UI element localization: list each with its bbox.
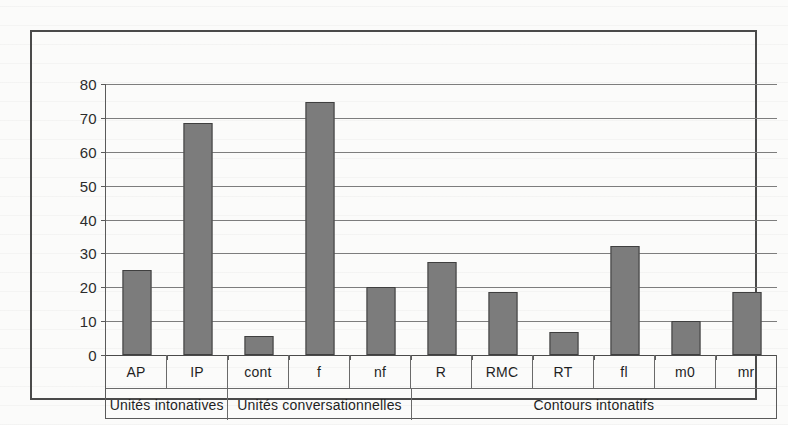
- bar-slot: [228, 84, 289, 355]
- category-label-nf: nf: [350, 355, 411, 388]
- plot-wrapper: 01020304050607080: [105, 84, 777, 355]
- category-label-ip: IP: [167, 355, 228, 388]
- bar-slot: [472, 84, 533, 355]
- bar: [244, 336, 273, 355]
- y-tick-label: 20: [80, 279, 97, 296]
- bar: [366, 287, 395, 355]
- bar: [610, 246, 639, 355]
- y-tick-label: 40: [80, 211, 97, 228]
- y-tick-label: 30: [80, 245, 97, 262]
- figure-frame: 01020304050607080 APIPcontfnfRRMCRTflm0m…: [30, 30, 757, 400]
- category-label-f: f: [289, 355, 350, 388]
- group-label: Unités conversationnelles: [228, 389, 411, 420]
- category-label-fl: fl: [594, 355, 655, 388]
- category-label-rt: RT: [533, 355, 594, 388]
- category-label-ap: AP: [106, 355, 167, 388]
- bar-slot: [533, 84, 594, 355]
- category-row: APIPcontfnfRRMCRTflm0mr: [106, 355, 776, 388]
- category-label-table: APIPcontfnfRRMCRTflm0mr Unités intonativ…: [105, 355, 777, 419]
- bar-slot: [167, 84, 228, 355]
- group-row: Unités intonativesUnités conversationnel…: [106, 388, 776, 420]
- bar-slot: [350, 84, 411, 355]
- y-tick-label: 10: [80, 313, 97, 330]
- plot-area: 01020304050607080: [105, 84, 777, 355]
- y-tick-label: 50: [80, 177, 97, 194]
- bar: [183, 123, 212, 355]
- y-tick-label: 0: [88, 347, 97, 364]
- category-label-cont: cont: [228, 355, 289, 388]
- bar: [671, 321, 700, 355]
- category-label-rmc: RMC: [472, 355, 533, 388]
- bar: [305, 102, 334, 355]
- bar-series: [106, 84, 777, 355]
- category-label-mr: mr: [716, 355, 776, 388]
- group-label: Unités intonatives: [106, 389, 228, 420]
- bar: [549, 332, 578, 355]
- bar-slot: [411, 84, 472, 355]
- bar: [122, 270, 151, 355]
- bar: [427, 262, 456, 355]
- bar: [488, 292, 517, 355]
- bar-slot: [289, 84, 350, 355]
- y-tick-label: 70: [80, 109, 97, 126]
- group-label: Contours intonatifs: [412, 389, 776, 420]
- bar-slot: [106, 84, 167, 355]
- category-label-m0: m0: [655, 355, 716, 388]
- bar: [732, 292, 761, 355]
- bar-slot: [716, 84, 777, 355]
- scanned-page: 01020304050607080 APIPcontfnfRRMCRTflm0m…: [0, 0, 788, 425]
- category-label-r: R: [411, 355, 472, 388]
- y-tick-label: 60: [80, 143, 97, 160]
- bar-slot: [594, 84, 655, 355]
- bar-slot: [655, 84, 716, 355]
- y-tick-label: 80: [80, 76, 97, 93]
